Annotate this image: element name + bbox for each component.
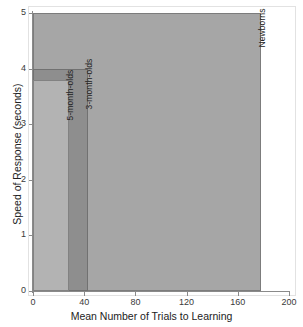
- y-axis-title: Speed of Response (seconds): [11, 44, 23, 264]
- bar-label-3-month-olds: 3-month-olds: [85, 58, 94, 109]
- x-axis-tick-mark: [238, 292, 239, 296]
- bar-label-newborns: Newborns: [258, 8, 267, 47]
- x-axis-tick-mark: [187, 292, 188, 296]
- x-axis-tick-mark: [33, 292, 34, 296]
- y-axis-tick-label: 5: [6, 8, 26, 17]
- x-axis-line: [32, 291, 290, 292]
- x-axis-tick-label: 200: [274, 298, 303, 307]
- plot-area: Newborns3-month-olds5-month-olds: [33, 13, 289, 291]
- x-axis-tick-label: 0: [18, 298, 48, 307]
- x-axis-tick-label: 160: [223, 298, 253, 307]
- x-axis-tick-mark: [84, 292, 85, 296]
- x-axis-tick-label: 80: [120, 298, 150, 307]
- x-axis-tick-mark: [135, 292, 136, 296]
- x-axis-tick-label: 40: [69, 298, 99, 307]
- y-axis-tick-label: 0: [6, 286, 26, 295]
- bar-label-5-month-olds: 5-month-olds: [66, 69, 75, 120]
- x-axis-title: Mean Number of Trials to Learning: [0, 310, 303, 322]
- bar-5-month-olds[interactable]: 5-month-olds: [33, 80, 69, 291]
- chart-container: 012345 04080120160200 Newborns3-month-ol…: [0, 0, 303, 327]
- x-axis-tick-label: 120: [172, 298, 202, 307]
- x-axis-tick-mark: [289, 292, 290, 296]
